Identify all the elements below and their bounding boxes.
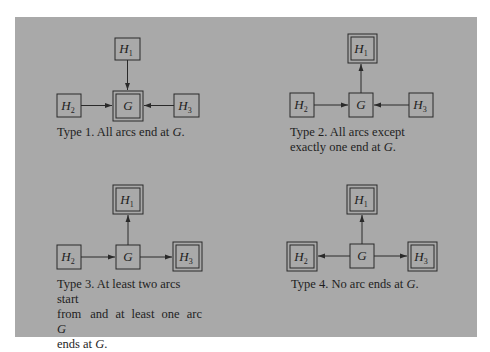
label-h3: H3 [413, 249, 427, 266]
caption-text: Type 1. All arcs end at [57, 125, 172, 139]
caption-italic-g: G [57, 322, 66, 336]
caption-type-3: Type 3. At least two arcs start from G a… [57, 277, 202, 352]
label-g: G [123, 98, 133, 113]
caption-period: . [415, 277, 418, 291]
label-g: G [356, 97, 366, 112]
caption-period: . [104, 337, 107, 351]
caption-italic-g: G [95, 337, 104, 351]
caption-line-3: ends at G. [57, 337, 202, 352]
label-g: G [357, 248, 367, 263]
caption-italic-g: G [384, 140, 393, 154]
caption-line-2: from G and at least one arc [57, 307, 202, 337]
label-h1: H1 [353, 41, 367, 58]
label-h3: H3 [178, 249, 192, 266]
label-g: G [123, 249, 133, 264]
caption-line-2: exactly one end at G. [290, 140, 405, 155]
label-h1: H1 [119, 192, 133, 209]
label-h1: H1 [118, 41, 132, 58]
label-h1: H1 [353, 192, 367, 209]
caption-period: . [181, 125, 184, 139]
caption-line-1: Type 2. All arcs except [290, 125, 405, 140]
label-h2: H2 [60, 249, 74, 266]
label-h3: H3 [412, 97, 426, 114]
caption-text: ends at [57, 337, 95, 351]
label-h3: H3 [177, 98, 191, 115]
caption-text: exactly one end at [290, 140, 384, 154]
label-h2: H2 [293, 97, 307, 114]
label-h2: H2 [293, 249, 307, 266]
caption-text: and at least one arc [83, 307, 202, 337]
caption-type-4: Type 4. No arc ends at G. [291, 277, 419, 292]
caption-text: from [57, 307, 81, 321]
caption-type-1: Type 1. All arcs end at G. [57, 125, 185, 140]
caption-line-1: Type 3. At least two arcs start [57, 277, 202, 307]
label-h2: H2 [60, 98, 74, 115]
caption-text: Type 4. No arc ends at [291, 277, 406, 291]
caption-type-2: Type 2. All arcs except exactly one end … [290, 125, 405, 155]
caption-period: . [393, 140, 396, 154]
